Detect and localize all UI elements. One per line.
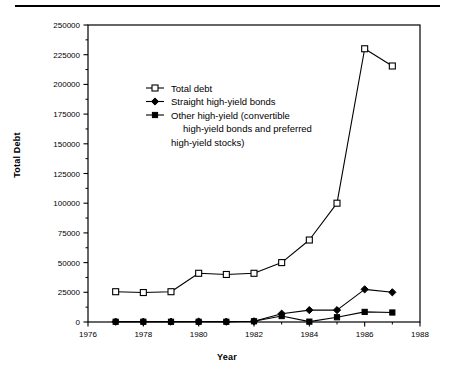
marker-filled-square — [152, 112, 157, 117]
y-tick-label: 100000 — [53, 199, 80, 208]
marker-filled-square — [224, 319, 229, 324]
y-tick-label: 0 — [76, 318, 81, 327]
y-tick-label: 50000 — [58, 259, 81, 268]
legend-label-1: Straight high-yield bonds — [171, 96, 276, 107]
marker-open-square — [196, 270, 202, 276]
marker-filled-square — [113, 319, 118, 324]
y-tick-label: 250000 — [53, 21, 80, 30]
y-tick-label: 200000 — [53, 80, 80, 89]
y-tick-label: 125000 — [53, 170, 80, 179]
marker-open-square — [389, 63, 395, 69]
marker-open-square — [223, 271, 229, 277]
marker-filled-square — [279, 313, 284, 318]
y-axis-tick-labels: 0250005000075000100000125000150000175000… — [53, 21, 80, 327]
marker-open-square — [251, 270, 257, 276]
marker-open-square — [334, 200, 340, 206]
y-axis-ticks — [84, 25, 89, 322]
marker-open-square — [168, 289, 174, 295]
marker-open-square — [362, 46, 368, 52]
y-tick-label: 175000 — [53, 110, 80, 119]
x-tick-label: 1982 — [245, 330, 263, 339]
x-tick-label: 1986 — [356, 330, 374, 339]
y-tick-label: 150000 — [53, 140, 80, 149]
marker-open-square — [152, 85, 158, 91]
x-tick-label: 1978 — [134, 330, 152, 339]
legend-label-2: Other high-yield (convertible — [171, 110, 290, 121]
chart-figure: Total Debt Year 025000500007500010000012… — [0, 0, 454, 383]
plot-frame — [88, 25, 420, 322]
line-chart-plot: 0250005000075000100000125000150000175000… — [0, 0, 454, 383]
x-tick-label: 1976 — [79, 330, 97, 339]
marker-filled-square — [251, 319, 256, 324]
marker-open-square — [306, 237, 312, 243]
legend-label-2-line2: high-yield bonds and preferred — [183, 123, 312, 134]
y-tick-label: 225000 — [53, 51, 80, 60]
x-axis-tick-labels: 1976197819801982198419861988 — [79, 330, 429, 339]
marker-filled-square — [196, 319, 201, 324]
marker-open-square — [113, 289, 119, 295]
marker-open-square — [140, 290, 146, 296]
y-tick-label: 75000 — [58, 229, 81, 238]
marker-filled-square — [168, 319, 173, 324]
marker-filled-square — [390, 310, 395, 315]
x-tick-label: 1988 — [411, 330, 429, 339]
marker-filled-square — [362, 309, 367, 314]
marker-filled-square — [307, 319, 312, 324]
legend-label-2-line3: high-yield stocks) — [171, 137, 244, 148]
marker-filled-square — [141, 319, 146, 324]
legend-label-0: Total debt — [171, 83, 213, 94]
x-tick-label: 1980 — [190, 330, 208, 339]
marker-filled-square — [334, 315, 339, 320]
y-tick-label: 25000 — [58, 288, 81, 297]
x-tick-label: 1984 — [300, 330, 318, 339]
marker-open-square — [279, 260, 285, 266]
